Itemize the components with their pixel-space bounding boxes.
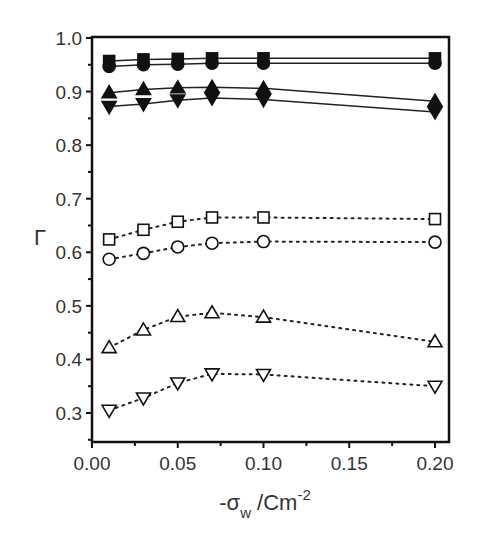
circle-marker bbox=[258, 57, 270, 69]
triangle-up-marker bbox=[102, 341, 116, 353]
triangle-down-marker bbox=[136, 393, 150, 405]
y-tick-label: 0.8 bbox=[56, 135, 82, 156]
series-line bbox=[109, 98, 435, 112]
series-open-circle bbox=[103, 236, 441, 266]
y-tick-label: 0.3 bbox=[56, 403, 82, 424]
y-tick-label: 0.6 bbox=[56, 242, 82, 263]
triangle-down-marker bbox=[428, 381, 442, 393]
triangle-up-marker bbox=[257, 81, 271, 93]
triangle-down-marker bbox=[428, 107, 442, 119]
triangle-down-marker bbox=[102, 102, 116, 114]
x-tick-label: 0.15 bbox=[331, 453, 368, 474]
triangle-up-marker bbox=[205, 306, 219, 318]
circle-marker bbox=[103, 60, 115, 72]
triangle-up-marker bbox=[171, 310, 185, 322]
square-marker bbox=[138, 224, 149, 235]
square-marker bbox=[430, 214, 441, 225]
circle-marker bbox=[172, 241, 184, 253]
circle-marker bbox=[137, 247, 149, 259]
triangle-down-marker bbox=[171, 378, 185, 390]
series-line bbox=[109, 242, 435, 260]
x-tick-label: 0.20 bbox=[417, 453, 454, 474]
chart: 0.30.40.50.60.70.80.91.0 0.000.050.100.1… bbox=[0, 0, 478, 538]
series-line bbox=[109, 374, 435, 410]
x-tick-label: 0.10 bbox=[245, 453, 282, 474]
x-tick-label: 0.00 bbox=[74, 453, 111, 474]
square-marker bbox=[258, 212, 269, 223]
series-open-up-triangle bbox=[102, 306, 442, 353]
y-tick-label: 1.0 bbox=[56, 28, 82, 49]
circle-marker bbox=[206, 57, 218, 69]
y-tick-label: 0.7 bbox=[56, 189, 82, 210]
circle-marker bbox=[172, 58, 184, 70]
x-axis: 0.000.050.100.150.20 bbox=[74, 442, 454, 474]
triangle-up-marker bbox=[205, 80, 219, 92]
series-layer bbox=[102, 53, 442, 417]
circle-marker bbox=[429, 236, 441, 248]
series-open-down-triangle bbox=[102, 369, 442, 417]
series-line bbox=[109, 87, 435, 101]
x-tick-label: 0.05 bbox=[159, 453, 196, 474]
y-tick-label: 0.9 bbox=[56, 82, 82, 103]
triangle-up-marker bbox=[171, 81, 185, 93]
y-axis-title: Γ bbox=[34, 225, 46, 250]
y-tick-label: 0.5 bbox=[56, 296, 82, 317]
square-marker bbox=[207, 212, 218, 223]
square-marker bbox=[172, 216, 183, 227]
triangle-down-marker bbox=[257, 369, 271, 381]
series-line bbox=[109, 217, 435, 239]
series-line bbox=[109, 58, 435, 61]
circle-marker bbox=[258, 236, 270, 248]
y-tick-label: 0.4 bbox=[56, 349, 83, 370]
triangle-up-marker bbox=[136, 82, 150, 94]
series-line bbox=[109, 63, 435, 66]
triangle-down-marker bbox=[102, 405, 116, 417]
circle-marker bbox=[103, 253, 115, 265]
circle-marker bbox=[206, 237, 218, 249]
series-filled-down-triangle bbox=[102, 93, 442, 119]
series-open-square bbox=[104, 212, 441, 245]
circle-marker bbox=[429, 57, 441, 69]
series-line bbox=[109, 313, 435, 348]
square-marker bbox=[104, 234, 115, 245]
y-axis: 0.30.40.50.60.70.80.91.0 bbox=[56, 28, 92, 440]
x-axis-title: -σw /Cm-2 bbox=[219, 486, 311, 521]
circle-marker bbox=[137, 59, 149, 71]
